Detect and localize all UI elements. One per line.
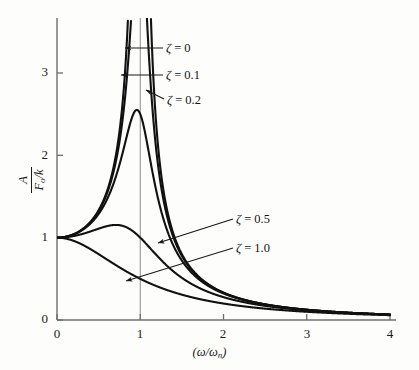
y-axis-fraction: A Fo/k bbox=[17, 167, 48, 193]
curve-label-zeta-01: ζ = 0.1 bbox=[166, 68, 200, 83]
y-axis-denominator-subscript: o bbox=[37, 178, 47, 183]
x-tick-label-4: 4 bbox=[378, 326, 402, 342]
y-axis-denominator-base: F bbox=[32, 183, 46, 191]
y-tick-label-3: 3 bbox=[26, 64, 48, 80]
x-tick-label-0: 0 bbox=[45, 326, 69, 342]
x-axis-title-main: (ω/ω bbox=[193, 345, 218, 359]
x-tick-label-2: 2 bbox=[211, 326, 235, 342]
y-axis-denominator: Fo/k bbox=[32, 167, 47, 192]
y-axis-title: A Fo/k bbox=[0, 157, 64, 203]
curve-group bbox=[57, 18, 390, 315]
y-axis-numerator: A bbox=[17, 174, 31, 186]
x-tick-marks bbox=[57, 314, 390, 320]
x-axis-title-close: ) bbox=[222, 345, 226, 359]
frequency-response-figure: 0 1 2 3 0 1 2 3 4 (ω/ωn) A Fo/k ζ = 0 ζ … bbox=[0, 0, 419, 370]
curve-label-zeta-02: ζ = 0.2 bbox=[167, 93, 201, 108]
zeta-value: = 0 bbox=[171, 41, 191, 55]
zeta-value: = 1.0 bbox=[241, 241, 270, 255]
curve-label-zeta-10: ζ = 1.0 bbox=[236, 241, 270, 256]
curve-zeta-05 bbox=[57, 225, 390, 315]
curve-label-zeta-0: ζ = 0 bbox=[166, 41, 191, 56]
y-tick-label-0: 0 bbox=[26, 311, 48, 327]
curve-zeta-10 bbox=[57, 238, 390, 315]
x-axis-title: (ω/ωn) bbox=[0, 345, 419, 360]
y-tick-label-1: 1 bbox=[26, 229, 48, 245]
zeta-value: = 0.2 bbox=[172, 93, 201, 107]
curve-label-zeta-05: ζ = 0.5 bbox=[236, 212, 270, 227]
zeta-value: = 0.5 bbox=[241, 212, 270, 226]
x-tick-label-1: 1 bbox=[128, 326, 152, 342]
curve-zeta-01 bbox=[57, 18, 390, 314]
y-axis-denominator-rest: /k bbox=[32, 169, 46, 178]
curve-zeta-0 bbox=[57, 19, 390, 314]
x-tick-label-3: 3 bbox=[295, 326, 319, 342]
curve-zeta-02 bbox=[57, 110, 390, 315]
zeta-value: = 0.1 bbox=[171, 68, 200, 82]
